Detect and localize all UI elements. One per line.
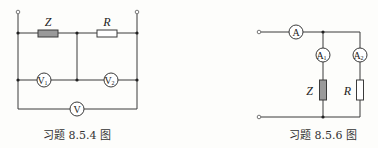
svg-text:A: A	[292, 27, 300, 38]
input-terminal-left	[16, 10, 20, 14]
voltmeter-v1: V1	[37, 73, 51, 87]
impedance-z	[320, 80, 327, 100]
ammeter-a1: A1	[316, 48, 330, 62]
figure-caption: 习题 8.5.6 图	[289, 129, 357, 142]
figure-caption: 习题 8.5.4 图	[43, 129, 111, 142]
junction-dot	[135, 31, 138, 34]
resistor-r	[97, 30, 117, 37]
junction-dot	[75, 78, 78, 81]
junction-dot	[16, 31, 19, 34]
impedance-z	[38, 30, 58, 37]
ammeter-a2: A2	[353, 48, 367, 62]
junction-dot	[16, 78, 19, 81]
junction-dot	[321, 115, 324, 118]
figure-8-5-4: Z R V1 V2 V 习题 8.5.4 图	[16, 10, 139, 142]
resistor-label: R	[343, 84, 352, 98]
junction-dot	[135, 78, 138, 81]
top-wire	[261, 32, 360, 48]
impedance-label: Z	[306, 84, 313, 98]
circuit-diagrams: Z R V1 V2 V 习题 8.5.4 图	[0, 0, 378, 148]
svg-text:V: V	[73, 104, 81, 115]
ammeter-total: A	[289, 25, 303, 39]
impedance-label: Z	[45, 15, 52, 29]
junction-dot	[75, 31, 78, 34]
resistor-label: R	[102, 15, 111, 29]
resistor-r	[357, 80, 364, 100]
figure-8-5-6: A A1 A2 Z R 习题 8.5.6 图	[257, 25, 367, 142]
junction-dot	[321, 30, 324, 33]
input-terminal-top	[257, 30, 261, 34]
voltmeter-v2: V2	[104, 73, 118, 87]
voltmeter-total: V	[70, 102, 84, 116]
input-terminal-right	[135, 10, 139, 14]
input-terminal-bottom	[257, 115, 261, 119]
